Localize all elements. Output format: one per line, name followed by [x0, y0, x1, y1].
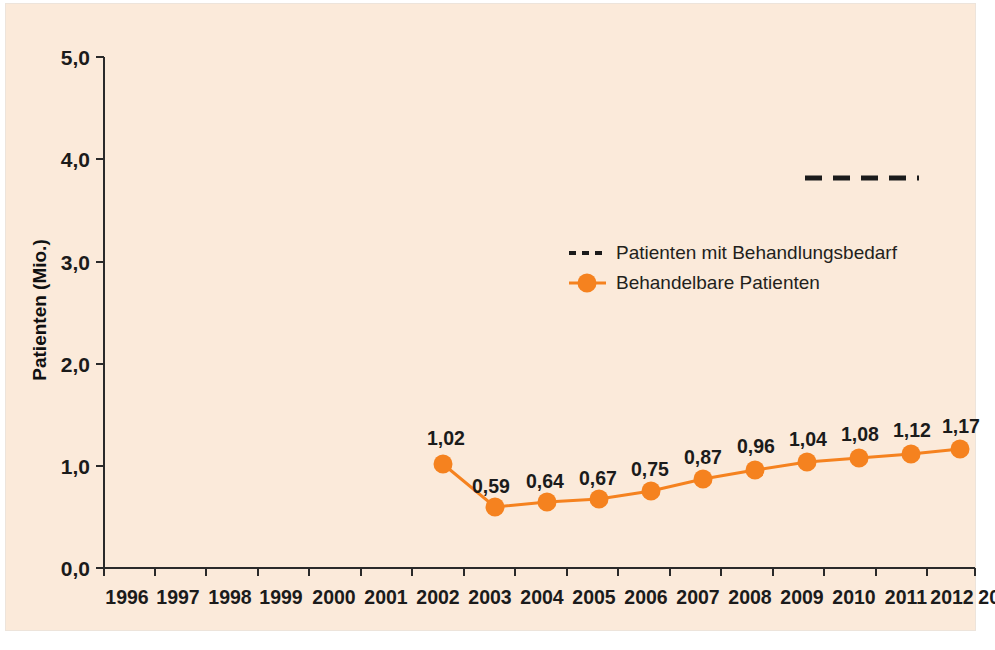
x-tick-label-1997: 1997: [156, 586, 199, 608]
data-label-2012: 1,12: [893, 419, 931, 441]
y-tick-label-5: 5,0: [61, 46, 90, 69]
data-label-2006: 0,67: [579, 467, 617, 489]
legend-label-patienten-mit-behandlungsbedarf: Patienten mit Behandlungsbedarf: [616, 242, 898, 263]
legend-item-behandelbare-patienten[interactable]: Behandelbare Patienten: [569, 272, 820, 293]
x-tick-label-2011: 2011: [885, 586, 927, 608]
y-tick-label-4: 4,0: [61, 148, 90, 171]
y-tick-label-3: 3,0: [61, 251, 90, 274]
chart-figure: 5,0 4,0 3,0 2,0 1,0 0,0 Patienten (Mio.): [0, 0, 995, 650]
x-tick-label-2002: 2002: [416, 586, 460, 608]
data-point-2008: [694, 470, 713, 489]
series-behandelbare-patienten: 1,02 0,59 0,64 0,67 0,75 0,87 0,96 1,04 …: [427, 415, 980, 517]
x-tick-label-1998: 1998: [208, 586, 252, 608]
data-label-2005: 0,64: [526, 470, 564, 492]
legend-circle-marker-icon: [578, 274, 597, 293]
line-chart: 5,0 4,0 3,0 2,0 1,0 0,0 Patienten (Mio.): [0, 0, 995, 650]
x-tick-label-2001: 2001: [364, 586, 408, 608]
x-tick-label-2009: 2009: [780, 586, 824, 608]
plot-area: 5,0 4,0 3,0 2,0 1,0 0,0 Patienten (Mio.): [0, 0, 995, 650]
data-label-2004: 0,59: [472, 475, 510, 497]
data-point-2011: [850, 449, 869, 468]
x-tick-label-2012: 2012: [930, 586, 974, 608]
x-axis: 1996 1997 1998 1999 2000 2001 2002 2003 …: [104, 568, 995, 608]
x-tick-label-2013: 2013: [978, 586, 995, 608]
data-point-2012: [902, 445, 921, 464]
x-tick-label-2003: 2003: [468, 586, 512, 608]
data-point-2009: [746, 461, 765, 480]
data-label-2011: 1,08: [841, 423, 879, 445]
y-tick-label-1: 1,0: [61, 455, 90, 478]
data-label-2008: 0,87: [684, 446, 722, 468]
x-tick-label-2010: 2010: [832, 586, 876, 608]
x-tick-label-2004: 2004: [520, 586, 564, 608]
data-label-2007: 0,75: [631, 458, 669, 480]
x-tick-label-2005: 2005: [572, 586, 616, 608]
data-point-2006: [590, 490, 609, 509]
y-axis: 5,0 4,0 3,0 2,0 1,0 0,0 Patienten (Mio.): [29, 46, 104, 580]
data-point-2010: [798, 453, 817, 472]
legend-item-patienten-mit-behandlungsbedarf[interactable]: Patienten mit Behandlungsbedarf: [569, 242, 898, 263]
x-tick-label-2007: 2007: [676, 586, 719, 608]
data-point-2013: [951, 440, 970, 459]
data-label-2009: 0,96: [737, 435, 775, 457]
chart-legend: Patienten mit Behandlungsbedarf Behandel…: [569, 242, 898, 293]
y-tick-label-0: 0,0: [61, 557, 90, 580]
data-point-2005: [538, 493, 557, 512]
x-tick-label-1999: 1999: [259, 586, 303, 608]
data-label-2010: 1,04: [789, 428, 827, 450]
data-point-2004: [486, 498, 505, 517]
legend-label-behandelbare-patienten: Behandelbare Patienten: [616, 272, 820, 293]
x-tick-label-2000: 2000: [312, 586, 356, 608]
x-tick-label-2008: 2008: [728, 586, 772, 608]
data-label-2003: 1,02: [427, 427, 465, 449]
data-point-2007: [642, 482, 661, 501]
data-label-2013: 1,17: [942, 415, 980, 437]
x-tick-label-1996: 1996: [105, 586, 149, 608]
y-tick-label-2: 2,0: [61, 353, 90, 376]
data-point-2003: [434, 455, 453, 474]
x-tick-label-2006: 2006: [624, 586, 668, 608]
y-axis-title: Patienten (Mio.): [29, 239, 50, 380]
